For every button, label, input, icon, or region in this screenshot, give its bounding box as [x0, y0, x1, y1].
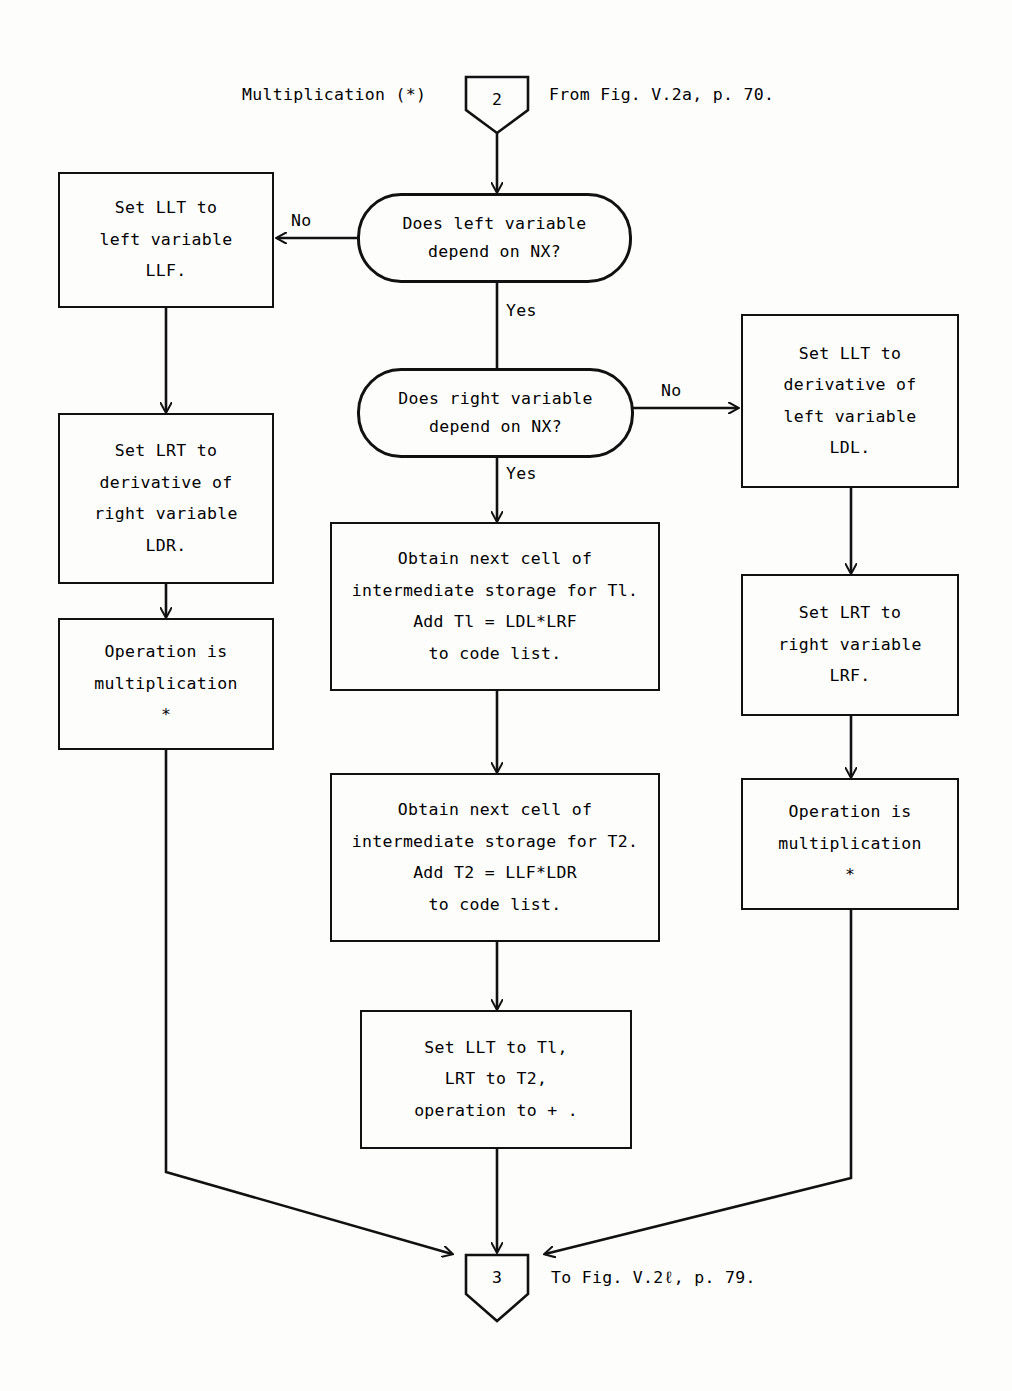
process-right-operation-multiplication[interactable]: Operation is multiplication *: [741, 778, 959, 910]
decision-left-depends-on-nx[interactable]: Does left variable depend on NX?: [357, 193, 632, 283]
process-left-set-llt-to-llf[interactable]: Set LLT to left variable LLF.: [58, 172, 274, 308]
exit-connector-3: 3: [463, 1252, 531, 1324]
center-t2-line4: to code list.: [428, 889, 561, 921]
decision1-line2: depend on NX?: [428, 238, 561, 267]
header-left-label: Multiplication (*): [242, 85, 426, 104]
left-lrt-line2: derivative of: [99, 467, 232, 499]
process-center-set-llt-lrt-operation[interactable]: Set LLT to Tl, LRT to T2, operation to +…: [360, 1010, 632, 1149]
exit-connector-label: 3: [492, 1268, 502, 1287]
right-lrt-line1: Set LRT to: [799, 598, 901, 630]
left-llt-line3: LLF.: [146, 256, 187, 288]
left-lrt-line3: right variable: [94, 499, 237, 531]
process-center-obtain-cell-t1[interactable]: Obtain next cell of intermediate storage…: [330, 522, 660, 691]
process-left-set-lrt-to-ldr[interactable]: Set LRT to derivative of right variable …: [58, 413, 274, 584]
entry-connector-2: 2: [463, 74, 531, 136]
center-t1-line4: to code list.: [428, 638, 561, 670]
right-llt-line4: LDL.: [830, 433, 871, 465]
center-t1-line1: Obtain next cell of: [398, 544, 592, 576]
decision2-yes-label: Yes: [506, 464, 537, 483]
center-final-line1: Set LLT to Tl,: [424, 1032, 567, 1064]
left-lrt-line1: Set LRT to: [115, 436, 217, 468]
decision2-line2: depend on NX?: [429, 413, 562, 442]
flowchart-page: Multiplication (*) 2 From Fig. V.2a, p. …: [0, 0, 1012, 1391]
right-llt-line1: Set LLT to: [799, 338, 901, 370]
decision-right-depends-on-nx[interactable]: Does right variable depend on NX?: [357, 368, 634, 458]
center-final-line3: operation to + .: [414, 1095, 578, 1127]
process-center-obtain-cell-t2[interactable]: Obtain next cell of intermediate storage…: [330, 773, 660, 942]
left-llt-line2: left variable: [99, 224, 232, 256]
process-left-operation-multiplication[interactable]: Operation is multiplication *: [58, 618, 274, 750]
center-t1-line3: Add Tl = LDL*LRF: [413, 607, 577, 639]
header-right-label: From Fig. V.2a, p. 70.: [549, 85, 774, 104]
decision1-no-label: No: [291, 211, 311, 230]
right-lrt-line2: right variable: [778, 629, 921, 661]
right-llt-line2: derivative of: [783, 370, 916, 402]
left-op-line2: multiplication: [94, 668, 237, 700]
right-llt-line3: left variable: [783, 401, 916, 433]
left-op-line1: Operation is: [105, 637, 228, 669]
left-llt-line1: Set LLT to: [115, 193, 217, 225]
decision1-line1: Does left variable: [402, 210, 586, 239]
center-t2-line1: Obtain next cell of: [398, 795, 592, 827]
center-t1-line2: intermediate storage for Tl.: [352, 575, 639, 607]
left-op-line3: *: [161, 700, 171, 732]
center-final-line2: LRT to T2,: [445, 1064, 547, 1096]
process-right-set-lrt-to-lrf[interactable]: Set LRT to right variable LRF.: [741, 574, 959, 716]
right-lrt-line3: LRF.: [830, 661, 871, 693]
decision1-yes-label: Yes: [506, 301, 537, 320]
entry-connector-label: 2: [492, 90, 502, 109]
center-t2-line3: Add T2 = LLF*LDR: [413, 858, 577, 890]
center-t2-line2: intermediate storage for T2.: [352, 826, 639, 858]
right-op-line3: *: [845, 860, 855, 892]
right-op-line2: multiplication: [778, 828, 921, 860]
footer-right-label: To Fig. V.2ℓ, p. 79.: [551, 1268, 756, 1288]
left-lrt-line4: LDR.: [146, 530, 187, 562]
process-right-set-llt-to-ldl[interactable]: Set LLT to derivative of left variable L…: [741, 314, 959, 488]
decision2-no-label: No: [661, 381, 681, 400]
decision2-line1: Does right variable: [398, 385, 592, 414]
right-op-line1: Operation is: [789, 797, 912, 829]
exit-connector-shape: [463, 1252, 531, 1324]
